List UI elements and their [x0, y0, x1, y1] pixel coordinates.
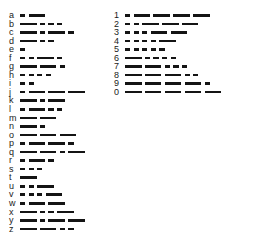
dot-symbol	[151, 40, 156, 43]
code-row: c	[9, 28, 88, 37]
dot-symbol	[125, 40, 130, 43]
dot-symbol	[20, 202, 25, 205]
letters-column: abcdefghijklmnopqrstuvwxyz	[9, 11, 88, 233]
dot-symbol	[20, 74, 25, 77]
dot-symbol	[20, 14, 25, 17]
dash-symbol	[29, 108, 46, 111]
code-row: 3	[114, 28, 224, 37]
dot-symbol	[37, 168, 42, 171]
dash-symbol	[46, 193, 63, 196]
code-row: s	[9, 165, 88, 174]
code-row-symbols	[20, 71, 54, 80]
code-row-symbols	[20, 11, 48, 20]
dash-symbol	[48, 142, 65, 145]
dot-symbol	[162, 57, 167, 60]
code-row: 4	[114, 37, 224, 46]
dot-symbol	[20, 48, 25, 51]
code-row-symbols	[20, 165, 46, 174]
dash-symbol	[125, 91, 142, 94]
dash-symbol	[20, 65, 37, 68]
code-row: f	[9, 54, 88, 63]
dot-symbol	[151, 48, 156, 51]
code-row: a	[9, 11, 88, 20]
dot-symbol	[40, 23, 45, 26]
code-row-label: 0	[114, 88, 125, 97]
code-row-symbols	[20, 190, 66, 199]
dot-symbol	[153, 57, 158, 60]
dot-symbol	[60, 151, 65, 154]
code-row: h	[9, 71, 88, 80]
morse-code-chart: abcdefghijklmnopqrstuvwxyz 1234567890	[0, 0, 257, 246]
code-row-symbols	[20, 225, 77, 234]
code-row: t	[9, 173, 88, 182]
dash-symbol	[165, 82, 182, 85]
code-row-symbols	[125, 71, 202, 80]
dash-symbol	[20, 134, 37, 137]
dot-symbol	[57, 23, 62, 26]
dash-symbol	[40, 65, 57, 68]
code-row: w	[9, 199, 88, 208]
code-row-symbols	[20, 122, 48, 131]
dot-symbol	[68, 228, 73, 231]
code-row-symbols	[20, 45, 29, 54]
dot-symbol	[182, 65, 187, 68]
dot-symbol	[20, 82, 25, 85]
code-row: 7	[114, 62, 224, 71]
dot-symbol	[29, 74, 34, 77]
dot-symbol	[68, 142, 73, 145]
dash-symbol	[145, 91, 162, 94]
dash-symbol	[20, 228, 37, 231]
dash-symbol	[125, 74, 142, 77]
dash-symbol	[20, 40, 37, 43]
dot-symbol	[29, 168, 34, 171]
code-row-symbols	[20, 105, 66, 114]
dot-symbol	[46, 74, 51, 77]
code-row-symbols	[20, 199, 68, 208]
dash-symbol	[68, 219, 85, 222]
dot-symbol	[57, 57, 62, 60]
dot-symbol	[60, 65, 65, 68]
code-row-symbols	[125, 37, 179, 46]
dash-symbol	[57, 211, 74, 214]
dash-symbol	[182, 23, 199, 26]
dash-symbol	[20, 151, 37, 154]
dash-symbol	[185, 91, 202, 94]
dash-symbol	[48, 91, 65, 94]
code-row-symbols	[125, 62, 191, 71]
dot-symbol	[48, 211, 53, 214]
code-row: e	[9, 45, 88, 54]
code-row-symbols	[20, 37, 57, 46]
code-row-symbols	[125, 88, 224, 97]
dash-symbol	[29, 159, 46, 162]
code-row: x	[9, 208, 88, 217]
dot-symbol	[20, 142, 25, 145]
dot-symbol	[40, 31, 45, 34]
code-row-label: z	[9, 225, 20, 234]
dash-symbol	[159, 40, 176, 43]
dash-symbol	[48, 219, 65, 222]
dash-symbol	[20, 211, 37, 214]
code-row: b	[9, 20, 88, 29]
code-row-symbols	[20, 28, 77, 37]
dash-symbol	[125, 65, 142, 68]
dot-symbol	[193, 74, 198, 77]
dot-symbol	[40, 99, 45, 102]
code-row: n	[9, 122, 88, 131]
code-row: v	[9, 190, 88, 199]
code-row: 6	[114, 54, 224, 63]
dash-symbol	[125, 57, 142, 60]
dot-symbol	[205, 82, 210, 85]
code-row-symbols	[20, 131, 80, 140]
dot-symbol	[125, 14, 130, 17]
code-row-symbols	[20, 156, 57, 165]
dot-symbol	[134, 31, 139, 34]
dash-symbol	[29, 202, 46, 205]
code-row: 9	[114, 79, 224, 88]
dash-symbol	[40, 117, 57, 120]
dot-symbol	[48, 40, 53, 43]
dot-symbol	[145, 57, 150, 60]
code-row-symbols	[20, 148, 88, 157]
dash-symbol	[134, 14, 151, 17]
dash-symbol	[29, 91, 46, 94]
dash-symbol	[125, 82, 142, 85]
